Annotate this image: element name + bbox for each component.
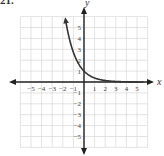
x-tick-label: 1 [93, 85, 97, 93]
x-tick-label: 4 [125, 85, 129, 93]
y-tick-label: −1 [74, 89, 82, 97]
x-tick-label: −5 [27, 85, 35, 93]
x-tick-label: −4 [38, 85, 46, 93]
x-tick-label: 5 [135, 85, 139, 93]
x-axis-label: x [156, 76, 162, 87]
y-tick-label: 3 [78, 46, 82, 54]
x-tick-label: −2 [59, 85, 67, 93]
x-tick-label: −3 [48, 85, 56, 93]
curve-arrow-icon [63, 17, 69, 23]
x-tick-label: 2 [103, 85, 107, 93]
y-axis-arrow-down-icon [81, 148, 87, 155]
y-tick-label: 1 [78, 68, 82, 76]
x-axis-arrow-right-icon [147, 79, 154, 85]
curve-group [63, 17, 143, 82]
y-tick-label: −3 [74, 111, 82, 119]
y-tick-label: 4 [78, 35, 82, 43]
x-tick-label: 3 [114, 85, 118, 93]
y-tick-label: −2 [74, 100, 82, 108]
y-axis-arrow-up-icon [81, 7, 87, 14]
y-tick-label: 5 [78, 24, 82, 32]
y-tick-label: −4 [74, 122, 82, 130]
y-axis-label: y [84, 0, 90, 8]
y-tick-label: −5 [74, 133, 82, 141]
x-axis-arrow-left-icon [9, 79, 16, 85]
chart: −5−4−3−2−112345−5−4−3−2−112345 x y [0, 0, 164, 156]
